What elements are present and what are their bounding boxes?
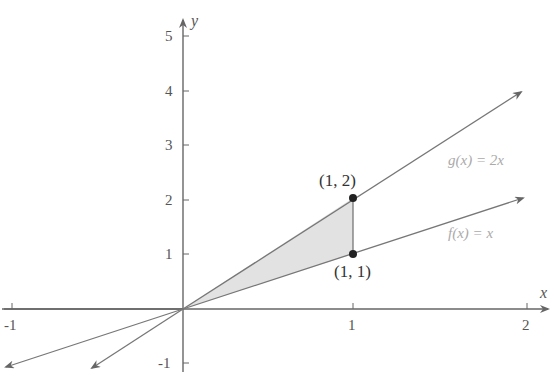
tick-label-x-neg1: -1 (4, 317, 17, 333)
tick-label-y-3: 3 (165, 137, 173, 153)
y-axis-label: y (189, 12, 199, 30)
tick-label-y-5: 5 (165, 28, 173, 44)
label-point-1-2: (1, 2) (319, 171, 356, 190)
f-line-lower (6, 309, 183, 367)
tick-label-x-2: 2 (522, 317, 530, 333)
label-f: f(x) = x (448, 225, 493, 242)
label-point-1-1: (1, 1) (334, 262, 371, 281)
chart: -1 1 2 5 4 3 2 1 -1 x y (1, 2) (1, 1) g(… (0, 0, 554, 381)
point-1-1 (349, 250, 357, 258)
tick-label-y-1: 1 (165, 246, 173, 262)
tick-label-y-neg1: -1 (158, 355, 171, 371)
tick-label-y-4: 4 (165, 83, 173, 99)
tick-label-x-1: 1 (348, 317, 356, 333)
label-g: g(x) = 2x (448, 152, 504, 169)
tick-label-y-2: 2 (165, 192, 173, 208)
x-axis-label: x (539, 284, 547, 301)
point-1-2 (349, 194, 357, 202)
